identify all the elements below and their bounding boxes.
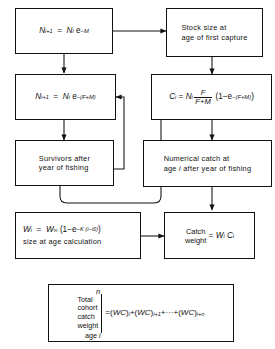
label-survivors: Survivors after year of fishing	[39, 154, 90, 173]
numerical-catch-line1: Numerical catch at	[164, 154, 230, 163]
label-catch-weight-stack: Catch weight	[185, 227, 206, 245]
node-total-cohort: n age i Total cohort catch weight =(WC)i…	[48, 284, 234, 342]
formula-natural-mortality: Ni+1 = Ni e−M	[39, 26, 89, 36]
label-stock-size: Stock size at age of first capture	[181, 23, 247, 42]
survivors-line1: Survivors after	[39, 154, 90, 163]
formula-total-mortality: Ni+1 = Ni e−(F+M)	[35, 92, 95, 102]
total-cohort-line4: weight	[78, 322, 99, 331]
numerical-catch-line2: age i after year of fishing	[164, 164, 252, 173]
label-numerical-catch: Numerical catch at age i after year of f…	[164, 154, 252, 173]
node-catch-equation: Ci = Ni F F+M (1−e−(F+M))	[151, 74, 272, 120]
node-stock-size: Stock size at age of first capture	[166, 8, 263, 57]
node-total-mortality: Ni+1 = Ni e−(F+M)	[15, 74, 116, 120]
survivors-line2: year of fishing	[39, 163, 89, 172]
node-catch-weight: Catch weight = Wi Ci	[164, 212, 255, 259]
node-natural-mortality: Ni+1 = Ni e−M	[15, 8, 113, 54]
stock-size-line2: age of first capture	[181, 33, 247, 42]
formula-size-at-age: Wi = W∞ (1−e−K (i−t0))	[23, 224, 101, 235]
total-cohort-label: Total cohort catch weight	[78, 296, 102, 330]
node-survivors: Survivors after year of fishing	[15, 140, 114, 186]
catch-weight-top: Catch	[186, 227, 205, 236]
catch-weight-bottom: weight	[185, 236, 206, 245]
summation-lower-limit: age i	[85, 331, 101, 340]
node-numerical-catch: Numerical catch at age i after year of f…	[143, 140, 272, 187]
formula-catch-equation: Ci = Ni F F+M (1−e−(F+M))	[169, 89, 254, 106]
stock-size-line1: Stock size at	[181, 23, 226, 32]
formula-catch-weight: Catch weight = Wi Ci	[185, 227, 234, 245]
total-cohort-inner: n age i Total cohort catch weight =(WC)i…	[49, 285, 233, 341]
fraction-f-over-fm: F F+M	[194, 89, 211, 106]
node-size-at-age: Wi = W∞ (1−e−K (i−t0)) size at age calcu…	[15, 212, 141, 259]
summation-upper-limit: n	[96, 287, 100, 296]
diagram-canvas: Ni+1 = Ni e−M Stock size at age of first…	[0, 0, 275, 349]
caption-size-at-age: size at age calculation	[23, 237, 101, 246]
total-cohort-expression: =(WC)i+(WC)i+1+···+(WC)i+n	[102, 308, 204, 317]
